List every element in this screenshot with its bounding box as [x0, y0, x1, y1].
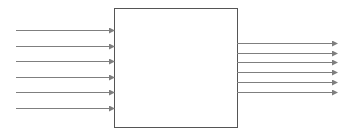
output-arrows [237, 44, 337, 93]
block-diagram [0, 0, 355, 136]
input-arrows [16, 31, 114, 109]
system-block [115, 9, 238, 128]
